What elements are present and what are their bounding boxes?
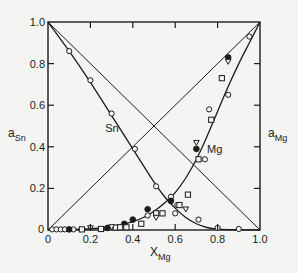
curve-label-mg: Mg: [207, 143, 222, 155]
data-point-open-square: [98, 226, 103, 231]
data-point-open-square: [177, 202, 182, 207]
data-point-open-square: [124, 225, 129, 230]
data-point-open-circle: [236, 226, 241, 231]
data-point-open-square: [139, 221, 144, 226]
data-point-open-square: [79, 227, 84, 232]
data-point-open-square: [219, 76, 224, 81]
y-tick-label: 0.2: [30, 182, 45, 194]
data-point-open-square: [185, 192, 190, 197]
data-points: [50, 34, 252, 232]
data-point-open-square: [196, 157, 201, 162]
data-point-open-circle: [173, 211, 178, 216]
data-point-open-triangle: [194, 140, 200, 145]
x-tick-label: 0.8: [210, 233, 225, 245]
data-point-open-circle: [196, 217, 201, 222]
y-tick-label: 1.0: [30, 16, 45, 28]
data-point-filled-circle: [194, 146, 200, 152]
data-point-open-circle: [247, 34, 252, 39]
y-axis-label-right: aMg: [268, 126, 287, 143]
curve-label-sn: Sn: [105, 122, 118, 134]
x-tick-label: 1.0: [252, 233, 267, 245]
data-point-open-circle: [132, 146, 137, 151]
x-tick-label: 0: [45, 233, 51, 245]
data-point-open-circle: [67, 49, 72, 54]
data-point-open-square: [209, 117, 214, 122]
data-point-open-triangle: [225, 59, 231, 64]
x-tick-label: 0.2: [83, 233, 98, 245]
data-point-open-square: [160, 211, 165, 216]
data-point-open-circle: [145, 213, 150, 218]
data-point-open-circle: [154, 184, 159, 189]
y-axis-label-left: aSn: [8, 126, 26, 143]
data-point-open-circle: [202, 157, 207, 162]
y-tick-label: 0.4: [30, 141, 45, 153]
data-point-open-circle: [88, 78, 93, 83]
x-tick-label: 0.6: [168, 233, 183, 245]
data-point-open-triangle: [183, 207, 189, 212]
data-point-open-circle: [207, 107, 212, 112]
activity-chart: SnMg 00.20.40.60.81.000.20.40.60.81.0 aS…: [0, 0, 298, 273]
reference-lines: [48, 22, 260, 230]
data-point-open-circle: [226, 92, 231, 97]
y-tick-label: 0: [38, 223, 44, 235]
y-tick-label: 0.8: [30, 58, 45, 70]
data-point-open-square: [117, 225, 122, 230]
data-point-filled-circle: [130, 217, 136, 223]
data-point-filled-circle: [145, 206, 151, 212]
data-point-open-triangle: [153, 215, 159, 220]
data-point-filled-circle: [66, 227, 72, 233]
data-point-filled-circle: [168, 198, 174, 204]
x-tick-label: 0.4: [125, 233, 140, 245]
data-point-open-circle: [109, 111, 114, 116]
x-axis-label: XMg: [150, 245, 171, 262]
y-tick-label: 0.6: [30, 99, 45, 111]
